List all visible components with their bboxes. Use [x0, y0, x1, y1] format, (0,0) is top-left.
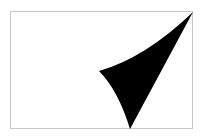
black-curved-triangle — [99, 12, 193, 129]
curved-triangle-shape — [0, 0, 204, 138]
